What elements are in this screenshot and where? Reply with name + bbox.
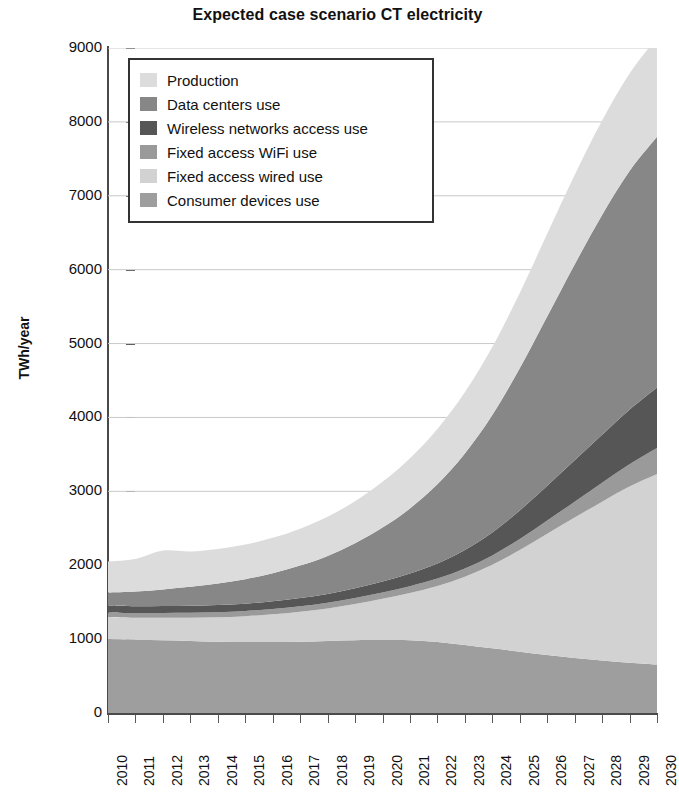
legend-item[interactable]: Production <box>140 68 422 92</box>
legend-swatch-icon <box>140 145 157 159</box>
x-tick-label: 2024 <box>498 755 514 786</box>
legend-swatch-icon <box>140 121 157 135</box>
legend-item-label: Fixed access wired use <box>167 169 323 184</box>
x-tick-mark <box>602 714 603 723</box>
x-tick-label: 2019 <box>361 755 377 786</box>
x-tick-label: 2020 <box>389 755 405 786</box>
x-tick-label: 2010 <box>114 755 130 786</box>
x-tick-mark <box>163 714 164 723</box>
x-tick-label: 2030 <box>663 755 679 786</box>
x-tick-mark <box>547 714 548 723</box>
x-tick-label: 2021 <box>416 755 432 786</box>
x-tick-mark <box>383 714 384 723</box>
x-tick-mark <box>630 714 631 723</box>
x-tick-label: 2014 <box>224 755 240 786</box>
legend-item-label: Fixed access WiFi use <box>167 145 317 160</box>
x-tick-label: 2013 <box>196 755 212 786</box>
x-tick-mark <box>218 714 219 723</box>
x-tick-label: 2012 <box>169 755 185 786</box>
legend-item-label: Data centers use <box>167 97 280 112</box>
x-axis-line <box>107 713 658 715</box>
x-tick-mark <box>355 714 356 723</box>
x-tick-label: 2017 <box>306 755 322 786</box>
x-tick-mark <box>300 714 301 723</box>
x-tick-label: 2022 <box>443 755 459 786</box>
x-tick-mark <box>135 714 136 723</box>
x-tick-mark <box>437 714 438 723</box>
legend-swatch-icon <box>140 73 157 87</box>
x-tick-label: 2027 <box>581 755 597 786</box>
legend-item[interactable]: Consumer devices use <box>140 188 422 212</box>
legend-swatch-icon <box>140 169 157 183</box>
legend-item[interactable]: Data centers use <box>140 92 422 116</box>
x-tick-label: 2023 <box>471 755 487 786</box>
x-tick-label: 2018 <box>334 755 350 786</box>
legend-item-label: Production <box>167 73 239 88</box>
x-tick-label: 2029 <box>636 755 652 786</box>
x-tick-mark <box>657 714 658 723</box>
x-tick-label: 2026 <box>553 755 569 786</box>
x-tick-mark <box>245 714 246 723</box>
x-tick-label: 2028 <box>608 755 624 786</box>
x-tick-mark <box>575 714 576 723</box>
x-tick-mark <box>410 714 411 723</box>
x-tick-label: 2011 <box>141 756 157 786</box>
x-tick-label: 2025 <box>526 755 542 786</box>
legend: ProductionData centers useWireless netwo… <box>128 58 434 223</box>
legend-item-label: Consumer devices use <box>167 193 320 208</box>
x-tick-mark <box>108 714 109 723</box>
x-tick-label: 2015 <box>251 755 267 786</box>
legend-swatch-icon <box>140 97 157 111</box>
x-tick-mark <box>465 714 466 723</box>
x-tick-mark <box>520 714 521 723</box>
x-tick-mark <box>328 714 329 723</box>
x-tick-label: 2016 <box>279 755 295 786</box>
legend-item-label: Wireless networks access use <box>167 121 368 136</box>
x-tick-mark <box>190 714 191 723</box>
legend-item[interactable]: Fixed access WiFi use <box>140 140 422 164</box>
legend-swatch-icon <box>140 193 157 207</box>
x-tick-mark <box>273 714 274 723</box>
legend-item[interactable]: Fixed access wired use <box>140 164 422 188</box>
x-tick-mark <box>492 714 493 723</box>
legend-item[interactable]: Wireless networks access use <box>140 116 422 140</box>
